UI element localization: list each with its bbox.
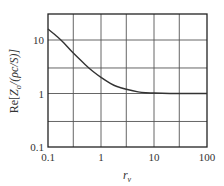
y-tick-label: 1 (39, 88, 45, 100)
grid-layer (48, 14, 207, 147)
plot-frame (48, 14, 207, 147)
x-tick-labels: 0.1110100 (41, 151, 216, 163)
x-axis-label: rv (123, 168, 132, 184)
y-tick-labels: 0.1110 (30, 34, 44, 153)
x-tick-label: 100 (199, 151, 216, 163)
series-line (48, 29, 207, 93)
y-axis-label-suffix: /(ρc/S)] (7, 48, 21, 86)
y-tick-label: 10 (33, 34, 45, 46)
y-axis-label: Re[Zo/(ρc/S)] (7, 48, 23, 113)
x-tick-label: 1 (98, 151, 104, 163)
x-tick-label: 10 (149, 151, 161, 163)
chart: 0.1110100 0.1110 rv Re[Zo/(ρc/S)] (0, 0, 224, 186)
y-axis-label-prefix: Re[ (7, 96, 21, 113)
y-tick-label: 0.1 (30, 141, 44, 153)
x-axis-label-sub: v (128, 175, 132, 184)
